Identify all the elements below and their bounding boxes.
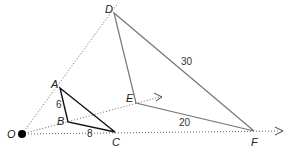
triangle-def xyxy=(114,13,254,131)
length-df: 30 xyxy=(181,56,193,67)
triangle-abc xyxy=(60,88,115,132)
label-e: E xyxy=(126,92,134,104)
center-point-o xyxy=(18,130,26,138)
length-ab: 6 xyxy=(56,99,62,110)
ray-o-to-d xyxy=(22,3,118,134)
label-f: F xyxy=(251,136,259,148)
label-c: C xyxy=(112,136,120,148)
label-b: B xyxy=(57,115,64,127)
arrow-f-icon xyxy=(275,127,283,135)
length-ef: 20 xyxy=(179,117,191,128)
label-a: A xyxy=(50,78,58,90)
dilation-diagram: O A B C D E F 6 8 30 20 xyxy=(0,0,286,154)
label-d: D xyxy=(105,3,113,15)
arrow-e-icon xyxy=(154,93,162,101)
label-o: O xyxy=(7,128,16,140)
length-bc: 8 xyxy=(87,128,93,139)
ray-o-to-f xyxy=(22,131,280,134)
